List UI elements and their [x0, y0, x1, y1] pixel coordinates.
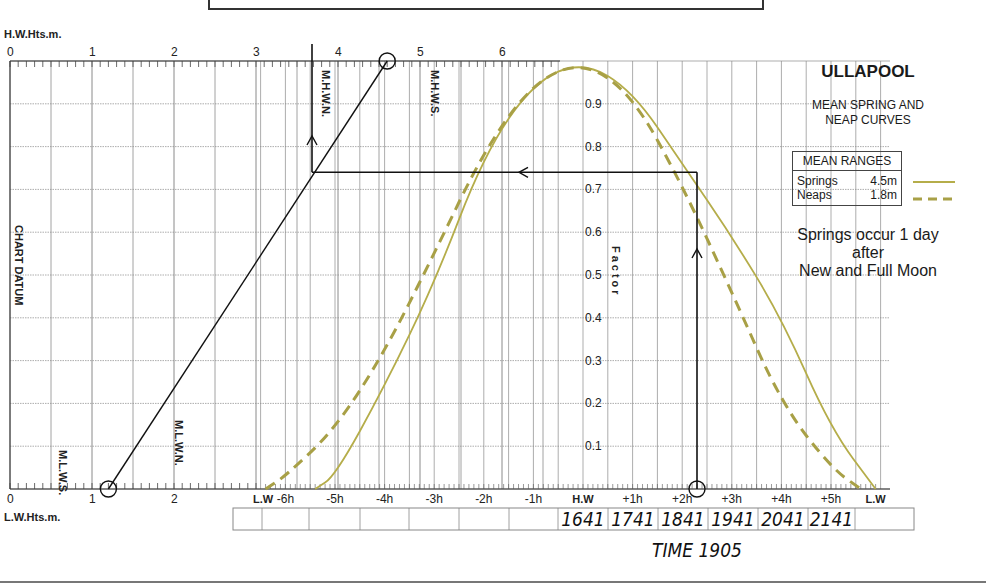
note-line-2: after	[770, 244, 966, 262]
legend-neaps-label: Neaps	[797, 188, 832, 202]
bottom-tick-label: 0	[7, 492, 14, 506]
bottom-tick-label: 2	[171, 492, 178, 506]
factor-tick-label: 0.7	[585, 182, 602, 196]
time-table-cell: 1841	[661, 508, 705, 530]
time-tick-label: +4h	[771, 492, 791, 506]
chart-subtitle-block: MEAN SPRING AND NEAP CURVES	[770, 98, 966, 128]
factor-axis-label: Factor	[610, 246, 622, 298]
chart-subtitle: MEAN SPRING AND NEAP CURVES	[808, 98, 928, 128]
legend-row-springs: Springs 4.5m	[793, 174, 901, 188]
port-title: ULLAPOOL	[770, 62, 966, 82]
top-tick-label: 0	[7, 45, 14, 59]
factor-tick-label: 0.3	[585, 354, 602, 368]
time-caption: TIME 1905	[652, 539, 742, 561]
chart-datum-label: CHART DATUM	[13, 225, 25, 305]
time-table-cell: 1941	[711, 508, 755, 530]
factor-tick-label: 0.1	[585, 439, 602, 453]
bottom-tick-label: 1	[89, 492, 96, 506]
mlwn-label: M.L.W.N.	[173, 420, 185, 466]
legend-row-neaps: Neaps 1.8m	[793, 188, 901, 202]
time-tick-label: -4h	[376, 492, 393, 506]
top-tick-label: 6	[499, 45, 506, 59]
mlws-label: M.L.W.S.	[57, 450, 69, 495]
legend-springs-label: Springs	[797, 174, 838, 188]
time-tick-label: +2h	[672, 492, 692, 506]
mhwn-label: M.H.W.N.	[320, 70, 332, 117]
factor-tick-label: 0.5	[585, 268, 602, 282]
top-tick-label: 5	[417, 45, 424, 59]
time-table-cell: 1741	[611, 508, 655, 530]
chart-title: ULLAPOOL	[770, 62, 966, 82]
hw-heights-label: H.W.Hts.m.	[4, 28, 61, 40]
time-tick-label: L.W	[253, 493, 274, 505]
tidal-curve-chart: H.W.Hts.m.0123456L.W.Hts.m.012L.W-6h-5h-…	[0, 0, 986, 585]
legend-neaps-value: 1.8m	[870, 188, 897, 202]
mhws-label: M.H.W.S.	[429, 70, 441, 116]
factor-tick-label: 0.4	[585, 311, 602, 325]
factor-tick-label: 0.2	[585, 396, 602, 410]
time-table-cell: 2141	[810, 508, 854, 530]
time-tick-label: -6h	[277, 492, 294, 506]
time-table-cell: 2041	[761, 508, 805, 530]
note-line-1: Springs occur 1 day	[770, 226, 966, 244]
time-tick-label: +1h	[622, 492, 642, 506]
time-tick-label: +3h	[722, 492, 742, 506]
factor-tick-label: 0.6	[585, 225, 602, 239]
time-tick-label: L.W	[866, 493, 887, 505]
mean-ranges-header: MEAN RANGES	[793, 152, 901, 171]
top-tick-label: 3	[253, 45, 260, 59]
note-line-3: New and Full Moon	[770, 262, 966, 280]
lw-heights-label: L.W.Hts.m.	[4, 511, 60, 523]
top-tick-label: 1	[89, 45, 96, 59]
time-tick-label: +5h	[821, 492, 841, 506]
legend-springs-value: 4.5m	[870, 174, 897, 188]
factor-tick-label: 0.8	[585, 140, 602, 154]
time-table-cell: 1641	[561, 508, 605, 530]
factor-tick-label: 0.9	[585, 97, 602, 111]
springs-note: Springs occur 1 day after New and Full M…	[770, 226, 966, 280]
time-tick-label: -5h	[326, 492, 343, 506]
time-tick-label: -3h	[426, 492, 443, 506]
time-tick-label: -2h	[475, 492, 492, 506]
mean-ranges-box: MEAN RANGES Springs 4.5m Neaps 1.8m	[792, 151, 902, 206]
top-tick-label: 2	[171, 45, 178, 59]
time-tick-label: H.W	[572, 493, 594, 505]
top-tick-label: 4	[335, 45, 342, 59]
time-tick-label: -1h	[525, 492, 542, 506]
